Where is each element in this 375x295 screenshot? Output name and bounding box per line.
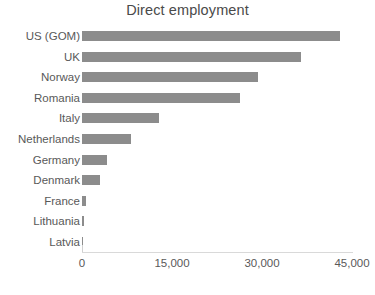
bar-germany bbox=[82, 155, 107, 165]
bar-track bbox=[82, 134, 352, 144]
bar-track bbox=[82, 72, 352, 82]
bar-track bbox=[82, 216, 352, 226]
bar-rows: US (GOM) UK Norway Romania bbox=[0, 26, 375, 252]
bar-track bbox=[82, 52, 352, 62]
bar-row: Italy bbox=[0, 108, 375, 129]
bar-track bbox=[82, 237, 352, 247]
category-label-uk: UK bbox=[64, 50, 80, 63]
plot-area: US (GOM) UK Norway Romania bbox=[0, 0, 375, 295]
bar-row: US (GOM) bbox=[0, 26, 375, 47]
x-tick-label: 15,000 bbox=[154, 256, 189, 270]
category-label-latvia: Latvia bbox=[49, 235, 80, 248]
category-label-netherlands: Netherlands bbox=[18, 133, 80, 146]
bar-netherlands bbox=[82, 134, 131, 144]
bar-track bbox=[82, 155, 352, 165]
bar-row: France bbox=[0, 190, 375, 211]
bar-uk bbox=[82, 52, 301, 62]
x-tick-label: 0 bbox=[79, 256, 85, 270]
bar-track bbox=[82, 31, 352, 41]
x-tick-label: 30,000 bbox=[244, 256, 279, 270]
x-tick-label: 45,000 bbox=[334, 256, 369, 270]
bar-track bbox=[82, 196, 352, 206]
bar-track bbox=[82, 175, 352, 185]
bar-lithuania bbox=[82, 216, 84, 226]
chart-container: Direct employment US (GOM) UK Norway bbox=[0, 0, 375, 295]
category-label-france: France bbox=[44, 194, 80, 207]
bar-row: Denmark bbox=[0, 170, 375, 191]
bar-row: UK bbox=[0, 47, 375, 68]
bar-us-gom bbox=[82, 31, 340, 41]
bar-norway bbox=[82, 72, 258, 82]
bar-track bbox=[82, 113, 352, 123]
bar-row: Norway bbox=[0, 67, 375, 88]
bar-row: Romania bbox=[0, 88, 375, 109]
category-label-norway: Norway bbox=[41, 71, 80, 84]
category-label-denmark: Denmark bbox=[33, 174, 80, 187]
bar-row: Netherlands bbox=[0, 129, 375, 150]
x-axis-tick-labels: 0 15,000 30,000 45,000 bbox=[0, 256, 375, 276]
category-label-lithuania: Lithuania bbox=[33, 215, 80, 228]
bar-denmark bbox=[82, 175, 100, 185]
category-label-germany: Germany bbox=[33, 153, 80, 166]
x-axis-line bbox=[82, 252, 353, 253]
bar-row: Germany bbox=[0, 149, 375, 170]
bar-row: Latvia bbox=[0, 231, 375, 252]
bar-france bbox=[82, 196, 86, 206]
bar-italy bbox=[82, 113, 159, 123]
category-label-italy: Italy bbox=[59, 112, 80, 125]
bar-row: Lithuania bbox=[0, 211, 375, 232]
category-label-us-gom: US (GOM) bbox=[26, 30, 80, 43]
category-label-romania: Romania bbox=[34, 91, 80, 104]
bar-romania bbox=[82, 93, 240, 103]
bar-track bbox=[82, 93, 352, 103]
